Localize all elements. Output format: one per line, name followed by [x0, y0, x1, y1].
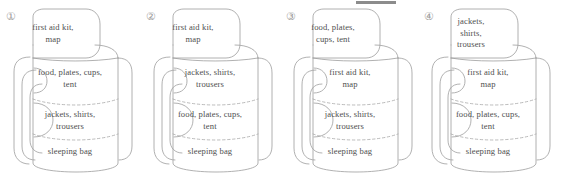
flap-label-2: first aid kit, map — [154, 22, 232, 45]
flap-label-4: jackets, shirts, trousers — [432, 16, 510, 51]
body-top-edge — [313, 58, 398, 61]
compartment-label-1-middle: jackets, shirts, trousers — [10, 109, 130, 132]
compartment-label-1-bottom: sleeping bag — [10, 146, 130, 158]
divider-dashed-1 — [313, 99, 398, 105]
backpack-panel-3: ③ food, plates, cups, tent first aid kit… — [280, 0, 420, 177]
compartment-label-2-top: jackets, shirts, trousers — [150, 67, 270, 90]
divider-dashed-1 — [33, 99, 118, 105]
backpack-panel-1: ① first aid kit, map food, plates, cups,… — [0, 0, 140, 177]
compartment-label-3-top: first aid kit, map — [290, 67, 410, 90]
divider-dashed-1 — [173, 99, 258, 105]
backpack-options-figure: ① first aid kit, map food, plates, cups,… — [0, 0, 561, 177]
divider-dashed-2 — [313, 134, 398, 140]
compartment-label-4-top: first aid kit, map — [428, 67, 548, 90]
compartment-label-2-bottom: sleeping bag — [150, 146, 270, 158]
body-top-edge — [451, 58, 536, 61]
compartment-label-1-top: food, plates, cups, tent — [10, 67, 130, 90]
backpack-panel-4: ④ jackets, shirts, trousers first aid ki… — [418, 0, 558, 177]
backpack-panel-2: ② first aid kit, map jackets, shirts, tr… — [140, 0, 280, 177]
body-top-edge — [33, 58, 118, 61]
compartment-label-4-bottom: sleeping bag — [428, 146, 548, 158]
divider-dashed-2 — [173, 134, 258, 140]
compartment-label-2-middle: food, plates, cups, tent — [150, 109, 270, 132]
divider-dashed-1 — [451, 99, 536, 105]
compartment-label-3-middle: jackets, shirts, trousers — [290, 109, 410, 132]
compartment-label-4-middle: food, plates, cups, tent — [428, 109, 548, 132]
body-top-edge — [173, 58, 258, 61]
flap-label-1: first aid kit, map — [14, 22, 92, 45]
compartment-label-3-bottom: sleeping bag — [290, 146, 410, 158]
divider-dashed-2 — [451, 134, 536, 140]
flap-label-3: food, plates, cups, tent — [294, 22, 372, 45]
divider-dashed-2 — [33, 134, 118, 140]
